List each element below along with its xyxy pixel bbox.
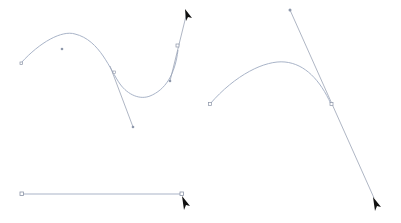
anchor-point[interactable] — [209, 103, 212, 106]
bezier-diagram-canvas — [0, 0, 401, 223]
s-curve-panel — [20, 9, 192, 128]
anchor-point[interactable] — [113, 71, 116, 74]
anchor-point[interactable] — [20, 192, 24, 196]
straight-segment-panel — [20, 192, 190, 210]
direction-handle-point[interactable] — [289, 9, 292, 12]
direction-handle-line — [110, 66, 133, 127]
direction-handle-point[interactable] — [169, 80, 172, 83]
s-curve-path — [21, 33, 178, 97]
anchor-point[interactable] — [20, 62, 23, 65]
anchor-point[interactable] — [176, 44, 179, 47]
pen-arrow-cursor-icon — [182, 196, 190, 210]
direction-handle-point[interactable] — [61, 48, 64, 51]
anchor-point[interactable] — [330, 103, 333, 106]
arc-curve-path — [210, 62, 331, 104]
direction-handle-point[interactable] — [132, 126, 135, 129]
pen-arrow-cursor-icon — [373, 197, 381, 211]
pen-arrow-cursor-icon — [185, 9, 192, 21]
arc-curve-panel — [209, 9, 382, 212]
anchor-point[interactable] — [180, 192, 184, 196]
